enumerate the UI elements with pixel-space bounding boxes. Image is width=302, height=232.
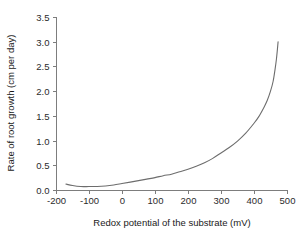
chart-plot-area: 0.00.51.01.52.02.53.03.5 -200-1000100200… <box>0 0 302 232</box>
x-tick-label: 100 <box>148 195 164 206</box>
x-tick-label: -200 <box>47 195 66 206</box>
y-tick-label: 0.5 <box>36 160 49 171</box>
x-tick-label: 0 <box>120 195 125 206</box>
y-axis-title: Rate of root growth (cm per day) <box>5 35 16 172</box>
y-tick-label: 3.0 <box>36 37 49 48</box>
y-axis: 0.00.51.01.52.02.53.03.5 <box>36 12 56 196</box>
x-axis: -200-1000100200300400500 <box>47 191 295 207</box>
x-tick-label: 400 <box>247 195 263 206</box>
x-axis-tick-marks <box>57 191 288 195</box>
data-series-group <box>66 42 278 187</box>
x-tick-label: -100 <box>80 195 99 206</box>
x-tick-label: 500 <box>280 195 296 206</box>
x-axis-tick-labels: -200-1000100200300400500 <box>47 195 295 206</box>
x-tick-label: 200 <box>181 195 197 206</box>
x-axis-title: Redox potential of the substrate (mV) <box>93 217 250 228</box>
y-tick-label: 2.5 <box>36 61 49 72</box>
y-axis-tick-labels: 0.00.51.01.52.02.53.03.5 <box>36 12 49 196</box>
x-tick-label: 300 <box>214 195 230 206</box>
y-tick-label: 1.5 <box>36 111 49 122</box>
y-tick-label: 1.0 <box>36 136 49 147</box>
chart-figure: 0.00.51.01.52.02.53.03.5 -200-1000100200… <box>0 0 302 232</box>
y-tick-label: 3.5 <box>36 12 49 23</box>
y-tick-label: 2.0 <box>36 86 49 97</box>
y-axis-tick-marks <box>53 18 57 191</box>
root-growth-curve <box>66 42 278 187</box>
